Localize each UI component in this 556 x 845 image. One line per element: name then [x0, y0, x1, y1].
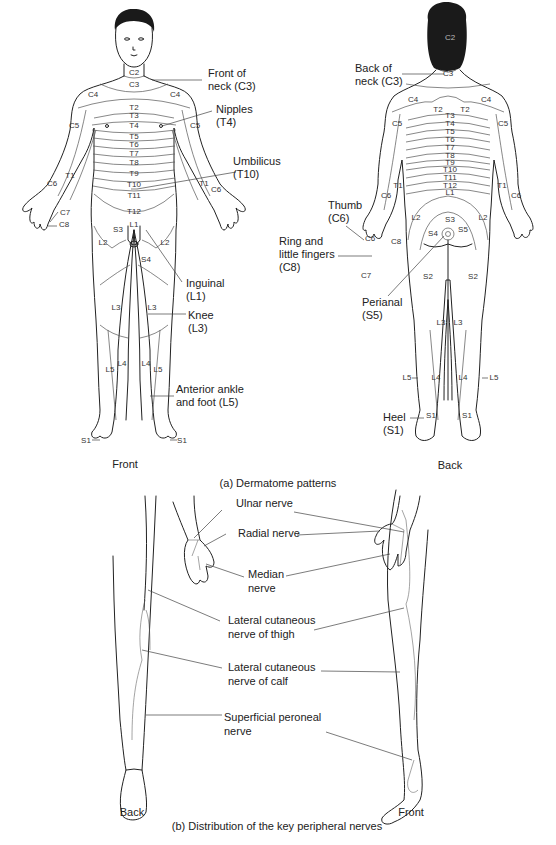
front-body: C2 C3 C4 C4 C5 C5 T2 T3 T4 T5 T6 T7 T8 T…	[23, 9, 281, 470]
callout-lat-cut-thigh: Lateral cutaneous	[228, 614, 316, 626]
seg-c7: C7	[60, 208, 71, 217]
svg-text:(C8): (C8)	[279, 261, 300, 273]
seg-l5: L5	[106, 365, 115, 374]
callout-thumb: Thumb	[328, 199, 362, 211]
seg-c4: C4	[408, 95, 419, 104]
seg-l2: L2	[99, 238, 108, 247]
nerves-back-label: Back	[120, 806, 145, 818]
seg-c8: C8	[391, 237, 402, 246]
seg-l2: L2	[479, 213, 488, 222]
seg-c3: C3	[443, 69, 454, 78]
svg-text:(S5): (S5)	[362, 309, 383, 321]
seg-l5: L5	[154, 365, 163, 374]
callout-back-neck: Back of	[355, 62, 393, 74]
seg-c6: C6	[211, 185, 222, 194]
svg-text:nerve: nerve	[248, 582, 276, 594]
seg-t1: T1	[393, 181, 403, 190]
callout-ring-little-fingers: Ring and	[279, 235, 323, 247]
seg-c2: C2	[129, 68, 140, 77]
seg-s3: S3	[113, 225, 123, 234]
seg-s1: S1	[81, 436, 91, 445]
seg-t1: T1	[497, 181, 507, 190]
peripheral-nerves: Ulnar nerve Radial nerve Median nerve La…	[113, 490, 428, 824]
seg-t7: T7	[129, 149, 139, 158]
callout-ankle-foot: Anterior ankle	[176, 383, 244, 395]
callout-inguinal: Inguinal	[186, 277, 225, 289]
seg-l3: L3	[454, 318, 463, 327]
callout-superficial-peroneal: Superficial peroneal	[224, 711, 321, 723]
seg-t1: T1	[199, 179, 209, 188]
svg-text:(T4): (T4)	[216, 116, 236, 128]
svg-text:nerve: nerve	[224, 725, 252, 737]
seg-s2: S2	[468, 272, 478, 281]
seg-c4: C4	[170, 90, 181, 99]
svg-text:(L3): (L3)	[188, 322, 208, 334]
caption-dermatome-patterns: (a) Dermatome patterns	[220, 477, 337, 489]
svg-text:and foot (L5): and foot (L5)	[176, 396, 238, 408]
seg-t2: T2	[460, 105, 470, 114]
seg-c5: C5	[69, 121, 80, 130]
seg-t3: T3	[129, 111, 139, 120]
seg-c5: C5	[190, 121, 201, 130]
seg-l4: L4	[142, 359, 151, 368]
back-leg	[113, 496, 156, 820]
seg-s1: S1	[177, 436, 187, 445]
seg-l2: L2	[412, 213, 421, 222]
seg-c6: C6	[381, 191, 392, 200]
front-head	[115, 28, 152, 67]
dermatome-figure: C2 C3 C4 C4 C5 C5 T2 T3 T4 T5 T6 T7 T8 T…	[0, 0, 556, 845]
seg-c5: C5	[392, 119, 403, 128]
front-leg	[382, 490, 428, 824]
callout-heel: Heel	[383, 411, 406, 423]
seg-l5: L5	[403, 373, 412, 382]
seg-c4: C4	[88, 90, 99, 99]
seg-l1: L1	[446, 188, 455, 197]
callout-perianal: Perianal	[362, 296, 402, 308]
svg-text:little fingers: little fingers	[279, 248, 335, 260]
seg-c4: C4	[481, 95, 492, 104]
callout-front-neck: Front of	[208, 67, 247, 79]
back-body: C2 C3 C4 C4 T2 T2 C5 C5 T3 T4	[279, 2, 533, 471]
caption-peripheral-nerves: (b) Distribution of the key peripheral n…	[172, 820, 383, 832]
seg-s3: S3	[445, 215, 455, 224]
seg-c7: C7	[361, 271, 372, 280]
callout-median-nerve: Median	[248, 568, 284, 580]
seg-l4: L4	[432, 373, 441, 382]
seg-s4: S4	[141, 255, 151, 264]
svg-text:neck (C3): neck (C3)	[208, 80, 256, 92]
seg-t2: T2	[433, 105, 443, 114]
seg-c8: C8	[59, 220, 70, 229]
right-hand	[375, 496, 420, 570]
svg-text:neck (C3): neck (C3)	[355, 75, 403, 87]
svg-text:(L1): (L1)	[186, 290, 206, 302]
svg-text:(T10): (T10)	[233, 168, 259, 180]
seg-l4: L4	[459, 373, 468, 382]
seg-c2: C2	[445, 33, 456, 42]
callout-nipples: Nipples	[216, 103, 253, 115]
svg-text:nerve of calf: nerve of calf	[228, 675, 289, 687]
seg-c6: C6	[47, 179, 58, 188]
seg-l1: L1	[130, 220, 139, 229]
seg-t4: T4	[129, 121, 139, 130]
callout-radial-nerve: Radial nerve	[238, 527, 300, 539]
seg-s2: S2	[423, 272, 433, 281]
front-view-label: Front	[112, 458, 138, 470]
seg-c5: C5	[498, 119, 509, 128]
seg-s1: S1	[426, 411, 436, 420]
seg-s4: S4	[428, 229, 438, 238]
svg-text:nerve of thigh: nerve of thigh	[228, 628, 295, 640]
seg-t6: T6	[129, 140, 139, 149]
callout-ulnar-nerve: Ulnar nerve	[236, 497, 293, 509]
nerves-front-label: Front	[398, 806, 424, 818]
back-view-label: Back	[438, 459, 463, 471]
seg-t12: T12	[127, 207, 141, 216]
callout-lat-cut-calf: Lateral cutaneous	[228, 661, 316, 673]
seg-s5: S5	[458, 225, 468, 234]
seg-c6: C6	[365, 234, 376, 243]
seg-c3: C3	[129, 80, 140, 89]
svg-text:(S1): (S1)	[383, 424, 404, 436]
callout-umbilicus: Umbilicus	[233, 155, 281, 167]
seg-c6: C6	[511, 191, 522, 200]
seg-t11: T11	[127, 191, 141, 200]
seg-s1: S1	[462, 411, 472, 420]
